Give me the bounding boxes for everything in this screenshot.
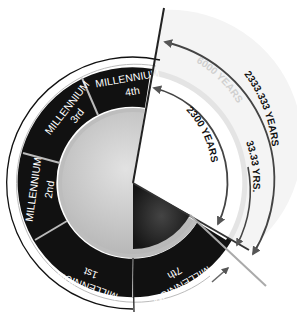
svg-text:2nd: 2nd	[42, 180, 56, 199]
millennium-diagram: 6000 YEARS MILLENNIUM 4th MILLENNIUM 3rd…	[0, 0, 297, 330]
small-arrow	[212, 268, 228, 282]
svg-text:4th: 4th	[124, 84, 141, 98]
